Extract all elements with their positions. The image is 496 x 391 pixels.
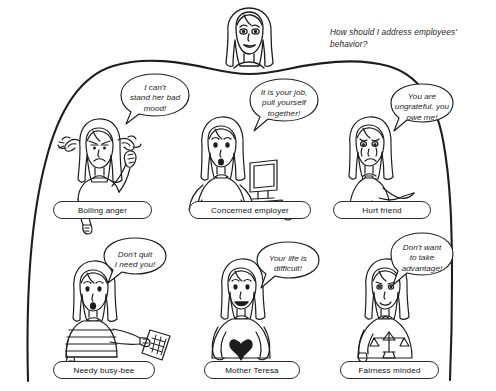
label-hurt-friend[interactable]: Hurt friend — [333, 201, 431, 219]
bubble-text-concerned-employer: It is your job, pull yourself together! — [250, 88, 318, 119]
bubble-text-hurt-friend: You are ungrateful, you owe me! — [391, 92, 453, 123]
label-mother-teresa-text: Mother Teresa — [225, 366, 279, 375]
label-needy-busy-bee[interactable]: Needy busy-bee — [53, 361, 155, 379]
bubble-text-boiling-anger: I can't stand her bad mood! — [121, 83, 189, 114]
bubble-text-fairness-minded: Don't want to take advantage! — [391, 243, 453, 274]
label-concerned-employer-text: Concerned employer — [211, 206, 289, 215]
label-needy-busy-bee-text: Needy busy-bee — [73, 366, 134, 375]
cartoon-scene: How should I address employees' behavior… — [0, 0, 496, 391]
label-concerned-employer[interactable]: Concerned employer — [189, 201, 311, 219]
label-hurt-friend-text: Hurt friend — [362, 206, 401, 215]
label-fairness-minded[interactable]: Fairness minded — [340, 361, 439, 379]
label-boiling-anger-text: Boiling anger — [78, 206, 127, 215]
label-fairness-minded-text: Fairness minded — [358, 366, 420, 375]
bubble-text-needy-busy-bee: Don't quit I need you! — [104, 250, 166, 271]
narrator-question: How should I address employees' behavior… — [330, 27, 480, 50]
label-mother-teresa[interactable]: Mother Teresa — [204, 361, 300, 379]
text-layer: How should I address employees' behavior… — [0, 0, 496, 391]
bubble-text-mother-teresa: Your life is difficult! — [257, 254, 319, 275]
label-boiling-anger[interactable]: Boiling anger — [53, 201, 152, 219]
